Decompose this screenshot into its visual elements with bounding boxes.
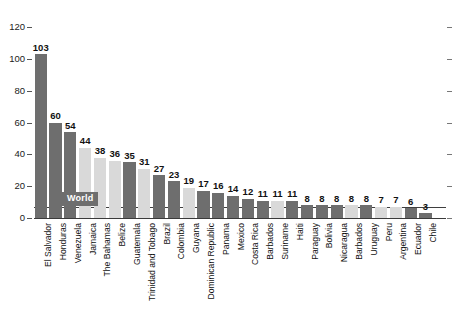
bar[interactable]: [271, 201, 283, 219]
bar[interactable]: [94, 158, 106, 218]
bar[interactable]: [360, 205, 372, 218]
category-slot: Costa Rica: [241, 221, 255, 325]
bar-value-label: 60: [50, 111, 61, 121]
bar[interactable]: [257, 201, 269, 219]
bar[interactable]: [390, 207, 402, 218]
y-tick-mark-right: [447, 59, 452, 60]
bar[interactable]: [153, 175, 165, 218]
world-badge: World: [62, 192, 98, 206]
category-slot: Uruguay: [360, 221, 374, 325]
bar-value-label: 35: [124, 151, 135, 161]
bar[interactable]: [138, 169, 150, 218]
bar-value-label: 6: [408, 197, 413, 207]
bar-value-label: 14: [228, 184, 239, 194]
bar[interactable]: [375, 207, 387, 218]
category-slot: Paraguay: [300, 221, 314, 325]
category-slot: Barbados: [256, 221, 270, 325]
bar-value-label: 7: [378, 195, 383, 205]
y-tick-mark: [27, 27, 32, 28]
bar[interactable]: [286, 201, 298, 219]
bar-slot[interactable]: 44: [78, 20, 92, 218]
category-slot: Haiti: [286, 221, 300, 325]
bar-slot[interactable]: 3: [419, 20, 433, 218]
bar-slot[interactable]: 54: [64, 20, 78, 218]
bar-value-label: 44: [80, 136, 91, 146]
y-tick-mark: [27, 186, 32, 187]
bar[interactable]: [212, 193, 224, 218]
bar-slot[interactable]: 23: [167, 20, 181, 218]
bar-slot[interactable]: 14: [226, 20, 240, 218]
y-tick-mark: [27, 91, 32, 92]
bar-slot[interactable]: 35: [123, 20, 137, 218]
y-tick-mark: [27, 59, 32, 60]
bar[interactable]: [123, 162, 135, 218]
bar[interactable]: [227, 196, 239, 218]
y-axis: 020406080100120: [0, 0, 34, 325]
bar-slot[interactable]: 11: [286, 20, 300, 218]
bar-slot[interactable]: 38: [93, 20, 107, 218]
bar-value-label: 11: [258, 189, 268, 199]
bar[interactable]: [79, 148, 91, 218]
bar-slot[interactable]: 8: [300, 20, 314, 218]
bar-value-label: 38: [95, 146, 106, 156]
bar-slot[interactable]: 12: [241, 20, 255, 218]
y-tick-mark-right: [447, 27, 452, 28]
bar-value-label: 8: [319, 194, 324, 204]
bar-slot[interactable]: 103: [34, 20, 48, 218]
category-slot: Guyana: [182, 221, 196, 325]
category-slot: Brazil: [152, 221, 166, 325]
bar-slot[interactable]: 8: [315, 20, 329, 218]
bar-slot[interactable]: 7: [374, 20, 388, 218]
bar-slot[interactable]: 17: [197, 20, 211, 218]
bar-value-label: 11: [272, 189, 282, 199]
category-slot: Nicaragua: [330, 221, 344, 325]
category-label: Chile: [429, 223, 438, 243]
bar[interactable]: [345, 205, 357, 218]
bar-slot[interactable]: 11: [271, 20, 285, 218]
bar[interactable]: [405, 208, 417, 218]
bar-value-label: 31: [139, 157, 150, 167]
x-axis-category-labels: El SalvadorHondurasVenezuelaJamaicaThe B…: [34, 221, 446, 325]
bar-value-label: 8: [364, 194, 369, 204]
y-tick-label: 120: [9, 22, 25, 32]
bar-slot[interactable]: 27: [152, 20, 166, 218]
bar-slot[interactable]: 7: [389, 20, 403, 218]
y-tick-label: 40: [14, 149, 25, 159]
bar-value-label: 19: [183, 176, 194, 186]
bar-value-label: 8: [334, 194, 339, 204]
bar-slot[interactable]: 36: [108, 20, 122, 218]
bar-slot[interactable]: 60: [49, 20, 63, 218]
bar[interactable]: [183, 188, 195, 218]
y-tick-label: 80: [14, 86, 25, 96]
category-slot: Jamaica: [78, 221, 92, 325]
bar-series: 1036054443836353127231917161412111111888…: [34, 20, 446, 218]
bar-value-label: 36: [109, 149, 120, 159]
bar-slot[interactable]: 16: [212, 20, 226, 218]
bar[interactable]: [109, 161, 121, 218]
bar[interactable]: [49, 123, 61, 219]
bar[interactable]: [197, 191, 209, 218]
category-slot: Dominican Republic: [197, 221, 211, 325]
bar[interactable]: [168, 181, 180, 218]
bar[interactable]: [331, 205, 343, 218]
bar-chart: 020406080100120 103605444383635312723191…: [0, 0, 461, 325]
bar-slot[interactable]: 19: [182, 20, 196, 218]
bar-slot[interactable]: 31: [138, 20, 152, 218]
bar-slot[interactable]: 8: [345, 20, 359, 218]
bar-value-label: 7: [393, 195, 398, 205]
bar[interactable]: [242, 199, 254, 218]
bar[interactable]: [316, 205, 328, 218]
bar-value-label: 12: [243, 187, 254, 197]
y-tick-label: 0: [20, 213, 25, 223]
bar-slot[interactable]: 8: [360, 20, 374, 218]
category-slot: Trinidad and Tobago: [138, 221, 152, 325]
y-tick-label: 60: [14, 118, 25, 128]
bar[interactable]: [35, 54, 47, 218]
bar-slot[interactable]: 6: [404, 20, 418, 218]
x-axis-baseline: [34, 218, 446, 219]
bar[interactable]: [301, 205, 313, 218]
bar-slot[interactable]: 11: [256, 20, 270, 218]
y-tick-mark-right: [447, 123, 452, 124]
bar-slot[interactable]: 8: [330, 20, 344, 218]
category-slot: Guatemala: [123, 221, 137, 325]
